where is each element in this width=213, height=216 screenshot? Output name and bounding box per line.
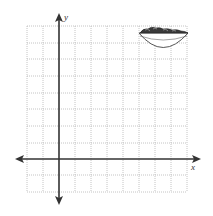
x-axis-label: x (191, 162, 195, 172)
coordinate-grid (0, 0, 213, 216)
y-axis-label: y (64, 12, 68, 22)
grid-lines (27, 26, 187, 192)
salad-bowl-icon (139, 27, 188, 47)
